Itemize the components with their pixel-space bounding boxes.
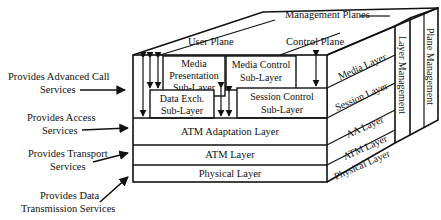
annotation-data-line1: Provides Data xyxy=(40,190,100,201)
data-exchange-line1: Data Exch. xyxy=(160,93,204,104)
arrow-diagonal-icon xyxy=(100,177,128,202)
data-exchange-line2: Sub-Layer xyxy=(161,105,204,116)
session-control-line1: Session Control xyxy=(250,91,314,102)
management-planes-label: Management Planes xyxy=(285,9,370,20)
annotation-access-line1: Provides Access xyxy=(27,112,96,123)
annotation-advanced-call-line2: Services xyxy=(40,84,76,95)
arrow-right-icon xyxy=(82,128,128,130)
atm-layer-label: ATM Layer xyxy=(205,149,255,160)
annotation-transport-line1: Provides Transport xyxy=(28,148,108,159)
protocol-cube-diagram: Management Planes User Plane Control Pla… xyxy=(0,0,441,220)
layer-management-label: Layer Management xyxy=(397,36,408,114)
side-media-layer-label: Media Layer xyxy=(336,51,388,82)
control-plane-label: Control Plane xyxy=(286,36,344,47)
annotation-data-line2: Transmission Services xyxy=(21,203,115,214)
session-control-line2: Sub-Layer xyxy=(261,104,304,115)
annotation-access-line2: Services xyxy=(42,125,78,136)
media-presentation-line2: Presentation xyxy=(169,70,218,81)
plane-management-label: Plane Management xyxy=(425,28,436,105)
annotation-transport-line2: Services xyxy=(50,161,86,172)
media-control-line2: Sub-Layer xyxy=(240,72,283,83)
side-session-layer-label: Session Layer xyxy=(333,80,390,113)
annotation-advanced-call-line1: Provides Advanced Call xyxy=(8,71,110,82)
aal-layer-label: ATM Adaptation Layer xyxy=(181,126,279,137)
media-control-line1: Media Control xyxy=(232,59,291,70)
physical-layer-label: Physical Layer xyxy=(199,168,262,179)
user-plane-label: User Plane xyxy=(188,36,234,47)
media-presentation-line1: Media xyxy=(181,58,207,69)
